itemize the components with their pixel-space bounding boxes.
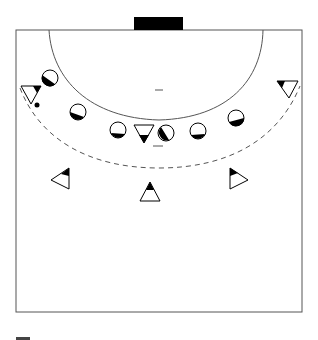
defender-marker [110, 122, 126, 138]
defender-marker [190, 123, 206, 139]
attacker-marker [230, 168, 248, 189]
court-outline [16, 30, 302, 312]
defender-marker [158, 125, 174, 141]
attacker-marker [21, 86, 41, 104]
attacker-marker [277, 81, 298, 98]
attacker-marker [134, 125, 154, 143]
attacker-marker [51, 168, 69, 189]
attacker-marker [140, 182, 160, 201]
handball-court-diagram [0, 0, 318, 340]
goal [134, 17, 183, 30]
ball-icon [35, 103, 40, 108]
defender-marker [41, 70, 58, 87]
defender-marker [228, 110, 244, 126]
defender-marker [70, 104, 86, 120]
